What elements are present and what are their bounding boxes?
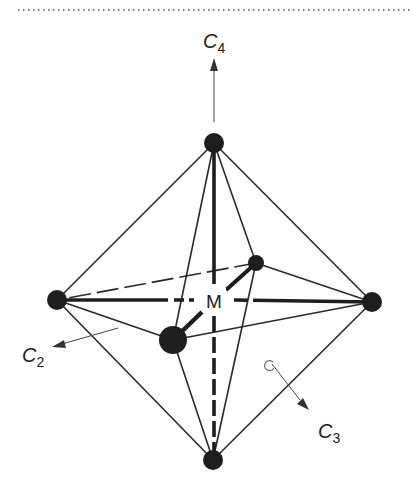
metal-center-label: M bbox=[206, 291, 222, 312]
atom-front bbox=[159, 326, 187, 354]
c2-axis-arrow bbox=[52, 328, 118, 348]
c3-label: C3 bbox=[318, 420, 340, 446]
c2-label: C2 bbox=[22, 344, 44, 370]
atom-top bbox=[204, 133, 224, 153]
rotation-icon bbox=[265, 361, 274, 371]
octahedron-diagram: C4 M bbox=[0, 0, 412, 498]
c4-label: C4 bbox=[203, 30, 225, 56]
atom-back bbox=[248, 255, 264, 271]
atom-left bbox=[47, 290, 67, 310]
c4-axis-arrow bbox=[210, 58, 218, 122]
atom-bottom bbox=[203, 450, 223, 470]
atom-right bbox=[362, 292, 382, 312]
